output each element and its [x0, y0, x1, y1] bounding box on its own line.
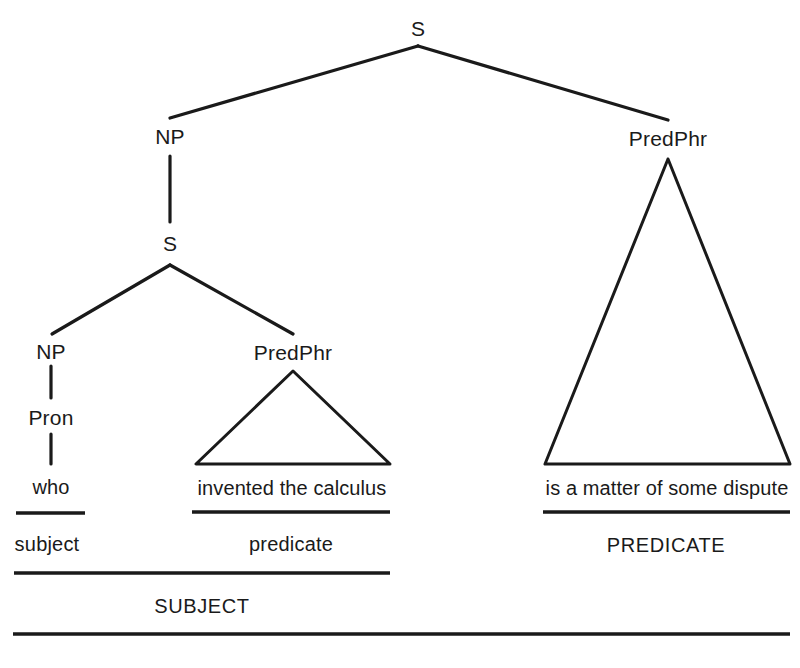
node-np-top: NP	[155, 126, 185, 147]
node-root-s: S	[411, 18, 425, 39]
edge-root-s-to-predphr	[418, 46, 668, 120]
node-embedded-s: S	[163, 233, 177, 254]
triangle-invented-the-calculus	[196, 371, 390, 464]
node-predphr-lower: PredPhr	[254, 342, 332, 363]
label-predicate-small: predicate	[249, 534, 333, 554]
edge-root-s-to-np	[170, 46, 418, 118]
terminal-who: who	[33, 477, 70, 497]
node-pron: Pron	[28, 407, 73, 428]
edge-embedded-s-to-np	[52, 265, 170, 334]
tree-lines-svg	[0, 0, 800, 668]
triangle-is-a-matter-of-some-dispute	[545, 159, 790, 464]
node-predphr-top: PredPhr	[629, 128, 707, 149]
terminal-is-a-matter-of-some-dispute: is a matter of some dispute	[546, 478, 789, 498]
syntax-tree-diagram: S NP PredPhr S NP PredPhr Pron who inven…	[0, 0, 800, 668]
label-predicate-caps: PREDICATE	[607, 535, 725, 555]
edge-embedded-s-to-predphr	[170, 265, 293, 334]
node-np-lower: NP	[36, 341, 66, 362]
label-subject-small: subject	[15, 534, 80, 554]
label-subject-caps: SUBJECT	[154, 596, 249, 616]
terminal-invented-the-calculus: invented the calculus	[198, 478, 387, 498]
